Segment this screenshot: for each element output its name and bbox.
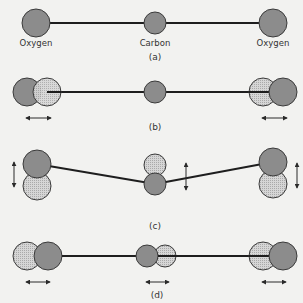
oxygen-atom-right-equilibrium <box>269 78 297 106</box>
oxygen-atom-right-equilibrium <box>259 148 287 176</box>
panel-label-a: (a) <box>149 52 162 62</box>
oxygen-atom-left-equilibrium <box>34 242 62 270</box>
carbon-atom-equilibrium <box>136 245 158 267</box>
panel-d: (d) <box>13 242 297 300</box>
label-oxygen-right: Oxygen <box>257 38 290 48</box>
panel-label-d: (d) <box>151 290 164 300</box>
bond-line <box>155 162 273 184</box>
label-carbon: Carbon <box>140 38 171 48</box>
co2-vibration-modes-diagram: Oxygen Carbon Oxygen (a) (b) (c) <box>0 0 303 303</box>
panel-label-c: (c) <box>149 221 161 231</box>
carbon-atom-equilibrium <box>144 173 166 195</box>
panel-label-b: (b) <box>149 122 162 132</box>
bond-line <box>37 164 155 184</box>
panel-a: Oxygen Carbon Oxygen (a) <box>20 9 290 62</box>
oxygen-atom-right <box>259 9 287 37</box>
panel-b: (b) <box>13 78 297 132</box>
panel-c: (c) <box>14 148 297 231</box>
oxygen-atom-right-equilibrium <box>269 242 297 270</box>
carbon-atom <box>144 81 166 103</box>
carbon-atom <box>144 12 166 34</box>
oxygen-atom-left-equilibrium <box>23 150 51 178</box>
label-oxygen-left: Oxygen <box>20 38 53 48</box>
oxygen-atom-left <box>22 9 50 37</box>
